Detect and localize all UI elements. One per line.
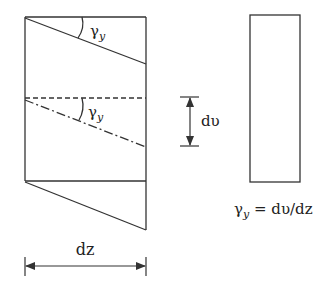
formula: γy = dυ/dz	[234, 200, 313, 221]
angle-arc-mid	[79, 98, 83, 120]
dv-label: dυ	[201, 112, 220, 130]
sheared-bottom-line	[25, 182, 146, 230]
shear-strain-diagram: γy γy dυ dz γy = dυ/dz	[0, 0, 335, 297]
angle-arc-top	[78, 17, 83, 38]
dz-dimension	[25, 257, 146, 276]
sheared-dash-dot-line	[25, 100, 146, 147]
gamma-top-label: γy	[90, 22, 106, 43]
sheared-top-line	[25, 18, 146, 64]
dz-label: dz	[76, 240, 95, 259]
dv-dimension	[180, 97, 199, 146]
gamma-mid-label: γy	[88, 103, 104, 124]
undeformed-element	[250, 15, 300, 182]
deformed-element	[25, 17, 146, 230]
